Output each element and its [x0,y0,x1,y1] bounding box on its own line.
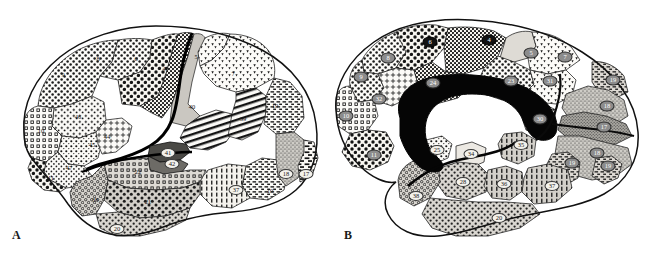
area-label-b-32-4: 32 [372,94,387,105]
area-label-a-10-7: 10 [37,127,46,135]
area-label-b-7-11: 7 [558,52,573,63]
area-label-a-20-20: 20 [110,224,125,234]
area-label-b-36-21: 36 [497,179,512,189]
area-label-b-30-12: 30 [533,114,548,125]
area-label-a-5-4: 5 [192,53,201,61]
area-label-a-42-16: 42 [165,159,180,169]
area-label-b-4-1: 4 [482,35,497,46]
area-label-b-19-13: 19 [606,75,621,86]
panel-a-caption: A [12,228,21,243]
area-label-a-39-13: 39 [239,115,248,123]
area-label-b-25-18: 25 [430,145,445,155]
area-label-a-8-1: 8 [94,55,103,63]
area-label-b-20-25: 20 [492,213,507,223]
area-label-b-35-20: 35 [514,140,529,150]
area-label-a-6-2: 6 [132,55,141,63]
area-label-a-7-5: 7 [229,70,238,78]
area-label-b-9-3: 9 [354,72,369,83]
area-label-a-45-8: 45 [88,141,97,149]
area-label-a-37-21: 37 [229,185,244,195]
area-label-a-4-3: 4 [160,65,169,73]
panel-b-caption: B [344,228,353,243]
area-label-b-37-24: 37 [545,181,560,191]
area-label-a-46-6: 46 [74,113,83,121]
area-label-a-41-15: 41 [161,148,176,158]
area-label-b-6-0: 6 [423,37,438,48]
area-label-b-24-7: 24 [426,78,441,89]
area-label-b-23-8: 23 [504,76,519,87]
area-label-a-40-12: 40 [188,103,197,111]
area-label-b-8-2: 8 [381,53,396,64]
brodmann-figure: 9864574610454447114039194142223821203719… [0,0,668,255]
area-label-a-44-9: 44 [103,133,112,141]
area-label-b-19-17: 19 [565,158,580,169]
area-label-b-34-19: 34 [464,149,479,159]
area-label-a-22-17: 22 [134,168,143,176]
area-label-b-11-6: 11 [367,150,382,161]
area-label-b-18-16: 18 [590,148,605,159]
area-label-a-38-18: 38 [91,196,100,204]
area-label-b-28-22: 28 [456,177,471,187]
area-label-b-10-5: 10 [339,111,354,122]
area-label-b-18-14: 18 [600,101,615,112]
area-label-a-18-23: 18 [279,169,294,179]
brain-map-svg [0,0,668,255]
area-label-b-38-23: 38 [409,191,424,201]
area-label-a-11-11: 11 [47,174,56,182]
area-label-a-9-0: 9 [59,71,68,79]
area-label-a-21-19: 21 [144,198,153,206]
area-label-a-47-10: 47 [65,164,74,172]
area-label-a-19-22: 19 [266,187,275,195]
area-label-a-19-14: 19 [271,102,280,110]
area-label-b-31-9: 31 [543,76,558,87]
area-label-b-19-26: 19 [601,161,616,172]
area-label-a-17-24: 17 [299,169,314,179]
area-label-b-17-15: 17 [597,122,612,133]
area-label-b-5-10: 5 [524,48,539,59]
